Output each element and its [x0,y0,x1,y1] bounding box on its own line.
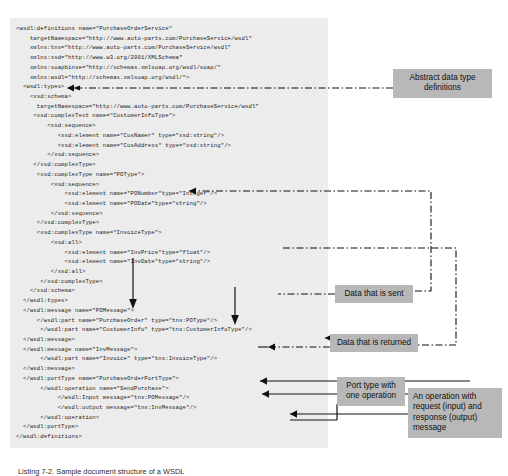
code-line: <xsd:sequence> [16,180,324,190]
code-line: </wsdl:part name="PurchaseOrder" type="t… [16,316,324,326]
code-line: </wsdl:definitions> [16,432,324,442]
code-line: <wsdl:definitions name="PurchaseOrderSer… [16,24,324,34]
code-line: </wsdl:operation name="SendPurchase"> [16,384,324,394]
figure-caption: Listing 7-2. Sample document structure o… [18,467,488,476]
code-line: </wsdl:Input message="tns:POMessage"/> [16,393,324,403]
code-line: <xsd:complexType name="POType"> [16,170,324,180]
code-line: <xsd:complexType name="InvoiceType"> [16,228,324,238]
code-line: </wsdl:message name="InvMessage"> [16,345,324,355]
code-line: </xsd:complexType> [16,218,324,228]
code-line: <xsd:element name="InvDate"type="string"… [16,257,324,267]
code-line: <xsd:complexText name="CustomerInfoType"… [16,111,324,121]
code-line: </wsdl:portType> [16,422,324,432]
code-line: </wsdl:message> [16,364,324,374]
code-line: </xsd:schema> [16,286,324,296]
code-line: <xsd:schema> [16,92,324,102]
code-line: <wsdl:types> [16,82,324,92]
callout-data-that-is-returned: Data that is returned [330,334,418,352]
wsdl-code-block: <wsdl:definitions name="PurchaseOrderSer… [10,18,328,448]
code-line: </xsd:complexType> [16,160,324,170]
code-line: <xsd:sequence> [16,121,324,131]
code-line: </wsdl:types> [16,296,324,306]
code-line: <xsd:element name="PONumber"type="Intege… [16,189,324,199]
code-line: </xsd:all> [16,267,324,277]
code-line: </xsd:sequence> [16,209,324,219]
code-line: </wsdl:part name="Invoice" type="tns:Inv… [16,354,324,364]
code-line: <xsd:element name="PODate"type="string"/… [16,199,324,209]
code-line: targetNamespace="http://www.auto-parts.c… [16,34,324,44]
code-line: </wsdl:message name="POMessage"> [16,306,324,316]
code-line: </xsd:sequence> [16,150,324,160]
callout-operation: An operation with request (input) and re… [408,388,502,438]
code-line: </wsdl:part name="CustomerInfo" type="tn… [16,325,324,335]
code-line: </wsdl:portType name="PurchaseOrderPortT… [16,374,324,384]
code-line: targetNamespace="http://www.auto-parts.c… [16,102,324,112]
callout-data-that-is-sent: Data that is sent [335,285,413,303]
code-line: </xsd:complexType> [16,277,324,287]
diagram-canvas: <wsdl:definitions name="PurchaseOrderSer… [0,0,508,476]
code-line: <xsd:element name="CusAddress" type="xsd… [16,141,324,151]
code-line: xmlns:xsd="http://www.w3.org/2001/XMLSch… [16,53,324,63]
code-line: xmlns:soapbinse="http://schemas.xmlsoap.… [16,63,324,73]
code-line: xmlns:wsdl="http://schemas.xmlsoap.org/w… [16,73,324,83]
code-line: <xsd:all> [16,238,324,248]
code-line: </wsdl:output message="tns:InvMessage"/> [16,403,324,413]
callout-abstract-data-types: Abstract data type definitions [393,69,492,98]
callout-port-type: Port type with one operation [337,377,405,406]
code-line: <xsd:element name="InvPrice"type="float"… [16,248,324,258]
code-line: <xsd:element name="CusNamer" type="xsd:s… [16,131,324,141]
code-line: </wsdl:operation> [16,413,324,423]
code-line: xmlns:tns="http://www.auto-parts.com/Pur… [16,43,324,53]
code-line: </wsdl:message> [16,335,324,345]
